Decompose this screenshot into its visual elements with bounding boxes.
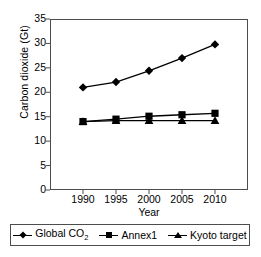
triangle-marker-icon (168, 230, 187, 241)
axis-ticks (46, 19, 215, 194)
data-point (211, 40, 219, 48)
series-markers (79, 40, 220, 125)
co2-emissions-line-chart: Carbon dioxide (Gt) 05101520253035 19901… (0, 0, 261, 257)
legend-item-label: Annex1 (121, 229, 157, 241)
series-layer (0, 0, 261, 257)
data-point (112, 78, 120, 86)
legend-item-diamond[interactable]: Global CO2 (13, 227, 88, 242)
data-point (79, 83, 87, 91)
data-point (145, 67, 153, 75)
legend-item-label: Global CO2 (35, 227, 88, 242)
data-point (211, 110, 218, 117)
data-point (178, 54, 186, 62)
series-lines (83, 44, 215, 121)
chart-legend: Global CO2Annex1Kyoto target (10, 224, 250, 246)
legend-item-label: Kyoto target (190, 229, 247, 241)
diamond-marker-icon (13, 230, 32, 241)
square-marker-icon (99, 230, 118, 241)
legend-item-triangle[interactable]: Kyoto target (168, 229, 247, 241)
legend-item-square[interactable]: Annex1 (99, 229, 157, 241)
